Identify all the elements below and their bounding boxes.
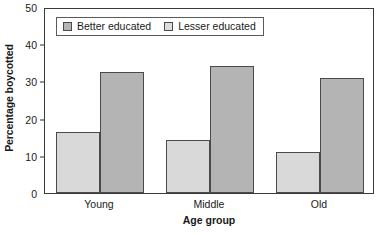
legend-entry: Lesser educated — [164, 21, 256, 32]
bar-group — [276, 9, 364, 193]
plot-frame: Better educatedLesser educated — [44, 8, 374, 194]
bar-chart-figure: Percentage boycotted 01020304050 Better … — [0, 0, 392, 235]
y-axis-tick-label: 20 — [25, 114, 37, 126]
bar — [100, 72, 144, 193]
bar — [320, 78, 364, 193]
y-axis-tick-label: 0 — [31, 188, 37, 200]
y-axis-title: Percentage boycotted — [0, 0, 18, 196]
x-axis-tick-labels: YoungMiddleOld — [44, 196, 374, 214]
x-axis-title: Age group — [44, 214, 374, 226]
x-axis-tick-label: Middle — [194, 198, 225, 210]
bar — [210, 66, 254, 193]
bar — [276, 152, 320, 193]
legend-swatch — [164, 22, 173, 31]
y-axis-title-text: Percentage boycotted — [3, 44, 15, 152]
x-axis-tick-label: Young — [84, 198, 113, 210]
bar-group — [166, 9, 254, 193]
plot-area — [45, 9, 373, 193]
legend-entry: Better educated — [63, 21, 151, 32]
bar — [56, 132, 100, 193]
legend-label: Lesser educated — [178, 21, 256, 32]
y-axis-tick-label: 10 — [25, 151, 37, 163]
chart-legend: Better educatedLesser educated — [56, 17, 264, 36]
y-axis-tick-labels: 01020304050 — [18, 0, 40, 196]
bar — [166, 140, 210, 193]
y-axis-tick-label: 40 — [25, 39, 37, 51]
x-axis-tick-label: Old — [311, 198, 327, 210]
legend-swatch — [63, 22, 72, 31]
bar-group — [56, 9, 144, 193]
legend-label: Better educated — [77, 21, 151, 32]
y-axis-tick-label: 30 — [25, 76, 37, 88]
y-axis-tick-label: 50 — [25, 2, 37, 14]
